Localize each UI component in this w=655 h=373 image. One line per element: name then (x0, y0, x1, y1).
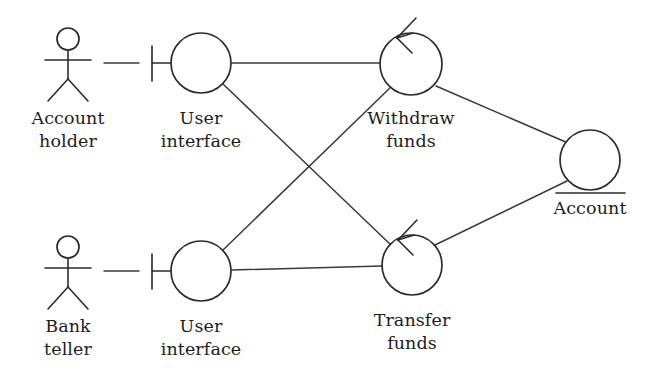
connection-user-interface-bottom-to-transfer-funds (232, 266, 382, 270)
boundary-circle-icon (171, 33, 231, 93)
robustness-diagram-canvas: boundary stem line (top) --> (0, 0, 655, 373)
actor-head-icon (57, 236, 79, 258)
control-transfer-funds-label-line1: Transfer (374, 310, 451, 330)
boundary-user-interface-bottom-label-line2: interface (161, 339, 242, 359)
boundary-circle-icon (171, 241, 231, 301)
boundary-user-interface-bottom: User interface (152, 241, 241, 359)
control-withdraw-funds-label-line2: funds (386, 131, 436, 151)
boundary-user-interface-bottom-label-line1: User (180, 316, 223, 336)
actor-leg-right-icon (68, 287, 88, 309)
actor-head-icon (57, 28, 79, 50)
actor-account-holder-label-line1: Account (30, 108, 104, 128)
entity-account-label: Account (552, 198, 626, 218)
boundary-user-interface-top-label-line1: User (180, 108, 223, 128)
entity-account: Account (552, 130, 626, 218)
actor-account-holder: Account holder (30, 28, 104, 151)
control-circle-icon (380, 33, 442, 95)
actor-leg-left-icon (48, 79, 68, 101)
actor-bank-teller-label-line2: teller (44, 339, 92, 359)
actor-bank-teller: Bank teller (44, 236, 92, 359)
diagram-svg: boundary stem line (top) --> (0, 0, 655, 373)
actor-leg-right-icon (68, 79, 88, 101)
entity-circle-icon (560, 130, 620, 190)
actor-account-holder-label-line2: holder (39, 131, 97, 151)
connection-withdraw-funds-to-account (436, 86, 568, 143)
actor-leg-left-icon (48, 287, 68, 309)
connection-transfer-funds-to-account (435, 181, 567, 245)
boundary-user-interface-top: User interface (152, 33, 241, 151)
control-withdraw-funds-label-line1: Withdraw (367, 108, 454, 128)
control-withdraw-funds: Withdraw funds (367, 18, 454, 151)
control-transfer-funds-label-line2: funds (387, 333, 437, 353)
actor-bank-teller-label-line1: Bank (45, 316, 91, 336)
boundary-user-interface-top-label-line2: interface (161, 131, 242, 151)
control-circle-icon (382, 235, 442, 295)
